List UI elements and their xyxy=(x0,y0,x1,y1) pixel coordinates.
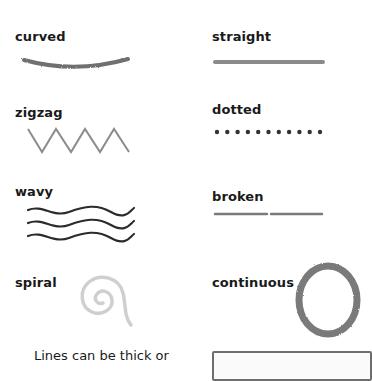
straight-line-sample xyxy=(212,56,327,68)
spiral-line-sample xyxy=(63,265,143,335)
continuous-circle-sample xyxy=(290,258,361,340)
label-spiral: spiral xyxy=(15,275,57,291)
label-curved: curved xyxy=(15,29,66,45)
label-dotted: dotted xyxy=(212,102,261,118)
label-straight: straight xyxy=(212,29,271,45)
label-continuous: continuous xyxy=(212,275,294,291)
dotted-line-sample xyxy=(212,127,327,137)
zigzag-line-sample xyxy=(25,126,135,166)
label-zigzag: zigzag xyxy=(15,105,63,121)
caption-text: Lines can be thick or xyxy=(34,348,169,364)
info-box xyxy=(212,351,372,381)
wavy-lines-sample xyxy=(25,204,137,246)
curved-line-sample xyxy=(20,50,135,80)
label-broken: broken xyxy=(212,189,264,205)
label-wavy: wavy xyxy=(15,184,53,200)
broken-line-sample xyxy=(212,210,327,218)
